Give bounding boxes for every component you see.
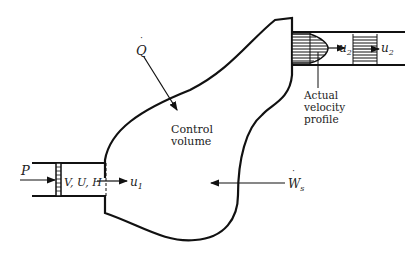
diagram-canvas: Q ˙ Control volume P V, U, H u1 u2 u2 Ws… (0, 0, 412, 265)
profile-label-1: Actual (303, 89, 339, 101)
pressure-label: P (20, 163, 30, 178)
control-volume-label-2: volume (170, 135, 211, 148)
shaft-work-label: Ws (288, 177, 304, 193)
shaft-work-dot: ˙ (291, 168, 296, 179)
heat-dot: ˙ (139, 35, 144, 46)
actual-velocity-profile (292, 32, 328, 65)
outlet-velocity-label-a: u2 (339, 41, 352, 57)
inlet-velocity-label: u1 (130, 175, 143, 191)
profile-label-2: velocity (303, 101, 345, 113)
profile-label-3: profile (304, 113, 339, 125)
outlet-velocity-label-b: u2 (381, 41, 394, 57)
inlet-properties-label: V, U, H (64, 176, 102, 189)
